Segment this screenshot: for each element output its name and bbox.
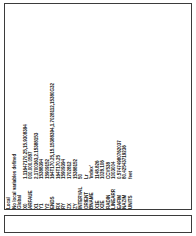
rotated-page-content: Local No local variables defined Global … — [5, 4, 192, 210]
screen-root: Local No local variables defined Global … — [0, 0, 196, 236]
variable-listing-panel: Local No local variables defined Global … — [4, 3, 192, 210]
variable-listing: Local No local variables defined Global … — [6, 6, 134, 209]
variable-value: feet — [128, 6, 134, 179]
table-row: UNITS feet — [128, 6, 134, 209]
secondary-empty-panel — [4, 215, 192, 233]
variable-name: UNITS — [128, 179, 134, 209]
